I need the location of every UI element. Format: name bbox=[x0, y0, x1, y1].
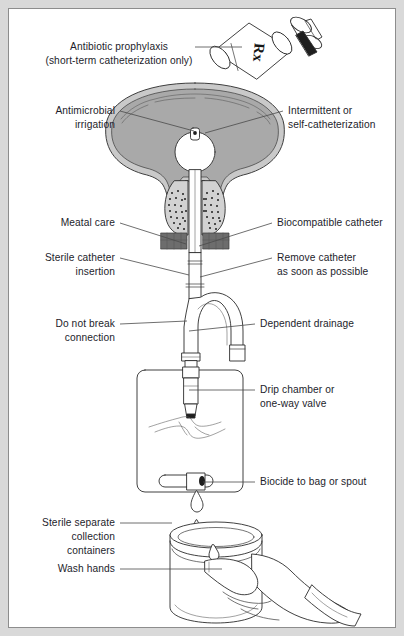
label-remove-catheter: Remove catheter as soon as possible bbox=[277, 252, 369, 277]
label-sterile-collection-containers: Sterile separate collection containers bbox=[42, 517, 115, 556]
label-do-not-break-connection: Do not break connection bbox=[55, 318, 115, 343]
pelvic-muscle-left bbox=[161, 233, 187, 249]
leader-dependent-drainage bbox=[189, 324, 255, 331]
leader-sterile-insertion bbox=[120, 258, 189, 275]
label-sterile-containers-line1: Sterile separate bbox=[42, 517, 115, 528]
catheter-care-illustration: Rx bbox=[9, 9, 395, 627]
label-drip-chamber-line1: Drip chamber or bbox=[260, 384, 335, 395]
label-sterile-catheter-insertion: Sterile catheter insertion bbox=[45, 252, 116, 277]
label-antimicrobial-line2: irrigation bbox=[75, 119, 115, 130]
label-remove-line1: Remove catheter bbox=[277, 252, 357, 263]
label-sterile-containers-line2: collection bbox=[72, 531, 115, 542]
figure-frame: Rx bbox=[8, 8, 396, 628]
label-sterile-insertion-line1: Sterile catheter bbox=[45, 252, 116, 263]
label-dependent-drainage: Dependent drainage bbox=[260, 318, 354, 329]
label-biocide: Biocide to bag or spout bbox=[260, 476, 367, 487]
label-meatal-care: Meatal care bbox=[61, 217, 116, 228]
label-sterile-insertion-line2: insertion bbox=[76, 266, 115, 277]
label-antibiotic-line2: (short-term catheterization only) bbox=[45, 55, 192, 66]
label-antimicrobial-line1: Antimicrobial bbox=[55, 105, 115, 116]
label-remove-line2: as soon as possible bbox=[277, 266, 369, 277]
label-drip-chamber: Drip chamber or one-way valve bbox=[260, 384, 335, 409]
label-wash-hands: Wash hands bbox=[58, 563, 115, 574]
leader-remove-catheter bbox=[200, 258, 272, 277]
figure-root: Rx bbox=[0, 0, 404, 636]
label-intermittent-line1: Intermittent or bbox=[288, 105, 353, 116]
pill-bottle-icon: Rx bbox=[206, 14, 324, 79]
label-do-not-break-line2: connection bbox=[65, 332, 115, 343]
label-antimicrobial-irrigation: Antimicrobial irrigation bbox=[55, 105, 115, 130]
drainage-bag bbox=[137, 367, 243, 512]
leader-do-not-break bbox=[120, 321, 187, 324]
pill-bottle-rx-label: Rx bbox=[250, 43, 268, 63]
label-intermittent-line2: self-catheterization bbox=[288, 119, 376, 130]
urine-drop-icon bbox=[191, 491, 203, 512]
pill-bottle-cap-icon bbox=[288, 14, 324, 56]
label-biocompatible-catheter: Biocompatible catheter bbox=[277, 217, 383, 228]
label-antibiotic-line1: Antibiotic prophylaxis bbox=[70, 41, 168, 52]
label-do-not-break-line1: Do not break bbox=[55, 318, 115, 329]
label-antibiotic-prophylaxis: Antibiotic prophylaxis (short-term cathe… bbox=[45, 41, 192, 66]
label-intermittent-self-catheterization: Intermittent or self-catheterization bbox=[288, 105, 376, 130]
label-sterile-containers-line3: containers bbox=[67, 545, 115, 556]
label-drip-chamber-line2: one-way valve bbox=[260, 398, 327, 409]
